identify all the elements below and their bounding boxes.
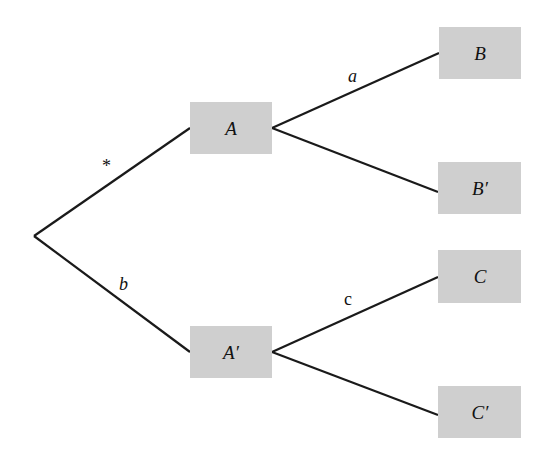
edge-root-to-a [34, 128, 190, 236]
tree-diagram: * b a c A A′ B B′ C C′ [0, 0, 548, 453]
edge-label-b: b [119, 274, 128, 294]
node-a-prime: A′ [190, 326, 272, 378]
node-b-prime: B′ [438, 162, 521, 214]
node-b-label: B [474, 43, 486, 64]
node-c-prime-label: C′ [472, 402, 490, 423]
edge-a-to-b-prime [272, 128, 438, 192]
node-c: C [438, 250, 521, 303]
edge-a-prime-to-c [272, 277, 438, 352]
node-c-label: C [474, 266, 487, 287]
node-b: B [439, 27, 521, 79]
node-b-prime-label: B′ [472, 178, 489, 199]
edge-label-star: * [102, 156, 111, 176]
edge-label-c: c [344, 289, 352, 309]
node-c-prime: C′ [438, 386, 521, 438]
node-a: A [190, 102, 272, 154]
edge-root-to-a-prime [34, 236, 190, 352]
edge-label-a: a [348, 66, 357, 86]
node-a-prime-label: A′ [221, 342, 240, 363]
node-a-label: A [223, 118, 237, 139]
edge-a-to-b [272, 53, 439, 128]
edge-a-prime-to-c-prime [272, 352, 438, 415]
